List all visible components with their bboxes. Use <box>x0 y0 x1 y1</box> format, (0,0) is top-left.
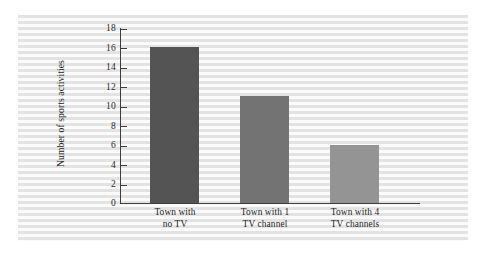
y-tick-label-14: 14 <box>96 63 116 73</box>
x-axis-label-line-2: TV channel <box>224 219 306 231</box>
bar-town-with-1-tv-channel <box>240 96 289 203</box>
x-axis-label-town-with-1-tv-channel: Town with 1 TV channel <box>224 207 306 230</box>
x-axis-label-line-1: Town with 1 <box>224 207 306 219</box>
y-tick-label-8: 8 <box>96 122 116 132</box>
chart-screenshot: Number of sports activities 18 16 14 12 … <box>0 0 486 255</box>
y-tick-mark-12 <box>121 87 127 88</box>
y-tick-mark-2 <box>121 185 127 186</box>
y-tick-label-4: 4 <box>96 161 116 171</box>
y-tick-label-10: 10 <box>96 102 116 112</box>
y-tick-label-0: 0 <box>96 199 116 209</box>
x-axis-line <box>120 203 420 204</box>
x-axis-label-town-with-4-tv-channels: Town with 4 TV channels <box>314 207 396 230</box>
y-tick-label-18: 18 <box>96 24 116 34</box>
y-tick-mark-4 <box>121 165 127 166</box>
y-tick-mark-14 <box>121 68 127 69</box>
x-axis-label-line-1: Town with 4 <box>314 207 396 219</box>
y-tick-mark-8 <box>121 126 127 127</box>
y-tick-label-6: 6 <box>96 141 116 151</box>
bar-town-with-4-tv-channels <box>330 145 379 203</box>
y-axis-line <box>120 28 121 204</box>
bar-town-with-no-tv <box>150 47 199 203</box>
y-tick-mark-10 <box>121 107 127 108</box>
x-axis-label-line-1: Town with <box>134 207 216 219</box>
y-tick-mark-6 <box>121 146 127 147</box>
x-axis-label-line-2: TV channels <box>314 219 396 231</box>
x-axis-label-town-with-no-tv: Town with no TV <box>134 207 216 230</box>
y-tick-mark-0 <box>121 203 127 204</box>
y-tick-label-2: 2 <box>96 180 116 190</box>
y-tick-mark-16 <box>121 48 127 49</box>
y-axis-title: Number of sports activities <box>55 24 66 204</box>
y-tick-mark-18 <box>121 29 127 30</box>
y-tick-label-16: 16 <box>96 44 116 54</box>
chart-plot-area: Number of sports activities 18 16 14 12 … <box>0 0 486 255</box>
x-axis-label-line-2: no TV <box>134 219 216 231</box>
y-tick-label-12: 12 <box>96 83 116 93</box>
